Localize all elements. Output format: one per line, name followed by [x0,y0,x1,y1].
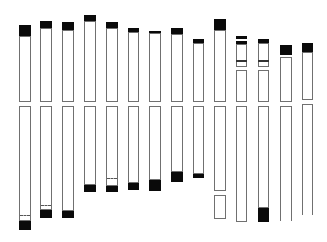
chromosome-11 [236,36,247,222]
chromosome-arm [280,57,292,102]
chromosome-9 [193,39,204,178]
chromosome-arm [19,36,31,102]
heterochromatin-band [193,39,204,43]
heterochromatin-band [62,22,74,30]
chromosome-13 [280,45,292,221]
heterochromatin-band [19,221,31,230]
chromosome-arm [302,104,313,215]
band-line [236,60,247,62]
dashed-marker [20,215,30,216]
heterochromatin-band [302,43,313,52]
chromosome-arm [302,52,313,100]
dashed-marker [41,205,51,206]
chromosome-6 [128,28,139,190]
chromosome-arm [40,106,52,210]
chromosome-arm [214,30,226,102]
heterochromatin-band [236,41,247,44]
heterochromatin-band [214,19,226,30]
heterochromatin-band [149,31,161,33]
chromosome-arm [84,21,96,102]
heterochromatin-band [258,39,269,43]
chromosome-arm [193,106,204,174]
chromosome-arm [236,44,247,67]
chromosome-arm [193,43,204,102]
chromosome-arm [106,28,118,102]
chromosome-arm [40,28,52,102]
chromosome-arm [280,106,292,221]
chromosome-1 [19,25,31,230]
chromosome-arm [171,106,183,172]
heterochromatin-band [106,186,118,192]
chromosome-arm [236,70,247,102]
chromosome-5 [106,22,118,192]
heterochromatin-band [171,28,183,34]
heterochromatin-band [193,174,204,178]
heterochromatin-band [258,208,269,222]
chromosome-arm [84,106,96,185]
chromosome-arm [258,106,269,208]
chromosome-4 [84,15,96,192]
chromosome-2 [40,21,52,218]
heterochromatin-band [84,185,96,192]
chromosome-14 [302,43,313,215]
heterochromatin-band [149,180,161,191]
heterochromatin-band [106,22,118,28]
chromosome-arm [149,33,161,102]
chromosome-arm [128,106,139,183]
chromosome-arm [258,70,269,102]
heterochromatin-band [19,25,31,36]
chromosome-arm [258,43,269,67]
heterochromatin-band [236,36,247,39]
chromosome-ideogram [0,0,327,242]
chromosome-12 [258,39,269,222]
chromosome-3 [62,22,74,218]
heterochromatin-band [171,172,183,182]
chromosome-10 [214,19,226,219]
heterochromatin-band [128,183,139,190]
band-line [258,60,269,62]
heterochromatin-band [128,28,139,32]
heterochromatin-band [280,45,292,55]
chromosome-arm [171,34,183,102]
chromosome-arm [149,106,161,180]
chromosome-8 [171,28,183,182]
chromosome-arm [106,106,118,186]
heterochromatin-band [84,15,96,21]
chromosome-arm [62,106,74,211]
dashed-marker [107,178,117,179]
chromosome-7 [149,31,161,191]
chromosome-arm [214,106,226,191]
heterochromatin-band [62,211,74,218]
chromosome-arm [236,106,247,222]
chromosome-arm [128,32,139,102]
chromosome-arm [62,30,74,102]
heterochromatin-band [40,210,52,218]
chromosome-arm [214,195,226,219]
chromosome-arm [19,106,31,221]
heterochromatin-band [40,21,52,28]
